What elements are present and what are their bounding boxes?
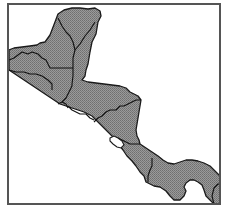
central-america-map (0, 0, 228, 215)
landmass (9, 8, 220, 204)
